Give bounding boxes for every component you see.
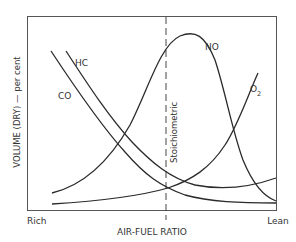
x-tick-lean: Lean: [267, 216, 289, 226]
no-label: NO: [205, 42, 219, 52]
hc-label: HC: [75, 58, 88, 68]
co-label: CO: [58, 91, 71, 101]
plot-frame: [28, 17, 277, 211]
stoichiometric-label: Stoichiometric: [169, 101, 179, 163]
y-axis-label: VOLUME (DRY) — per cent: [12, 56, 22, 168]
o2-label-subscript: 2: [257, 90, 261, 98]
emissions-chart: CO HC NO O 2 Stoichiometric VOLUME (DRY)…: [0, 0, 296, 242]
co-curve: [51, 51, 276, 203]
x-tick-rich: Rich: [27, 216, 46, 226]
x-axis-label: AIR-FUEL RATIO: [117, 227, 187, 237]
o2-curve: [52, 73, 258, 204]
